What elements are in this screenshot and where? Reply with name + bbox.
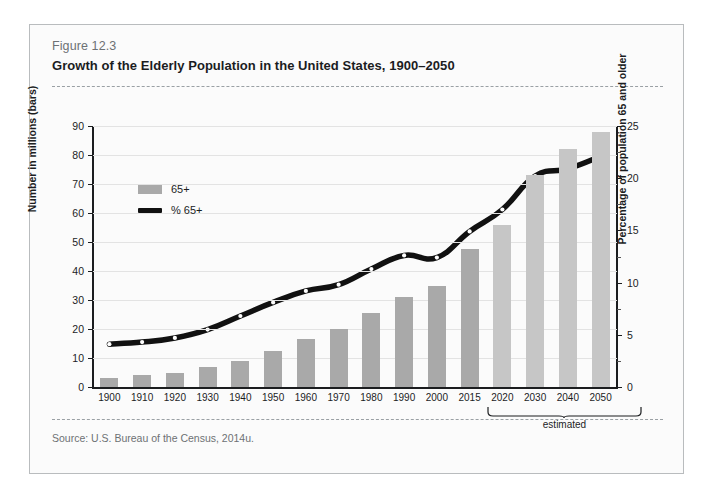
y-axis-right-tick-label: 15 (627, 224, 639, 236)
x-axis-tick-label-1960: 1960 (295, 392, 317, 403)
x-axis-tick-label-1980: 1980 (360, 392, 382, 403)
legend-bar-swatch-icon (138, 185, 162, 194)
y-axis-left-tick-label: 10 (72, 352, 84, 364)
figure-frame: Figure 12.3 Growth of the Elderly Popula… (29, 24, 684, 474)
bar-2000 (428, 286, 446, 388)
y-axis-left-tick-label: 70 (72, 178, 84, 190)
line-marker-1990 (402, 253, 406, 257)
chart-legend: 65+ % 65+ (138, 181, 203, 223)
y-axis-left-tick-label: 80 (72, 149, 84, 161)
x-axis-tick-label-2020: 2020 (491, 392, 513, 403)
y-axis-left-title: Number in millions (bars) (26, 69, 38, 229)
line-marker-1900 (107, 342, 111, 346)
line-marker-2000 (435, 255, 439, 259)
legend-line-label: % 65+ (171, 204, 203, 216)
y-axis-left-tick-label: 40 (72, 265, 84, 277)
line-marker-2015 (468, 229, 472, 233)
y-axis-right-tick-label: 0 (627, 381, 633, 393)
bar-2030 (526, 175, 544, 387)
y-axis-right-minor-tick (617, 309, 621, 310)
x-axis-tick-label-2050: 2050 (590, 392, 612, 403)
x-axis-tick-label-2030: 2030 (524, 392, 546, 403)
estimated-bracket-icon (487, 407, 642, 418)
x-axis-tick-label-2040: 2040 (557, 392, 579, 403)
y-axis-right-tick (617, 387, 622, 388)
gridline (93, 155, 617, 156)
y-axis-left-tick (88, 387, 93, 388)
bar-2050 (592, 132, 610, 387)
bar-1920 (166, 373, 184, 388)
line-marker-1920 (173, 336, 177, 340)
x-axis-tick-label-1950: 1950 (262, 392, 284, 403)
y-axis-right-tick (617, 335, 622, 336)
y-axis-right-tick-label: 20 (627, 172, 639, 184)
chart-plot: 0102030405060708090051015202519001910192… (93, 126, 617, 387)
bar-1930 (199, 367, 217, 387)
gridline (93, 126, 617, 127)
bar-2015 (461, 249, 479, 387)
estimated-caption: estimated (487, 419, 642, 430)
bar-1970 (330, 329, 348, 387)
legend-item-bars: 65+ (138, 181, 203, 197)
x-axis-tick-label-1900: 1900 (98, 392, 120, 403)
y-axis-right-tick (617, 283, 622, 284)
y-axis-right-title: Percentage of population 65 and older (616, 34, 628, 264)
x-axis-tick-label-1930: 1930 (197, 392, 219, 403)
bar-1910 (133, 375, 151, 387)
line-marker-1940 (238, 314, 242, 318)
line-marker-1970 (337, 283, 341, 287)
bar-1990 (395, 297, 413, 387)
bar-1940 (231, 361, 249, 387)
y-axis-left-tick (88, 242, 93, 243)
y-axis-right-tick-label: 5 (627, 329, 633, 341)
y-axis-left-tick (88, 358, 93, 359)
y-axis-left-tick-label: 90 (72, 120, 84, 132)
y-axis-left-tick-label: 60 (72, 207, 84, 219)
x-axis-tick-label-1990: 1990 (393, 392, 415, 403)
line-marker-2020 (500, 207, 504, 211)
x-axis (92, 387, 618, 389)
y-axis-left-tick-label: 20 (72, 323, 84, 335)
y-axis-right-minor-tick (617, 361, 621, 362)
y-axis-left-tick-label: 0 (78, 381, 84, 393)
bar-2040 (559, 149, 577, 387)
bar-1980 (362, 313, 380, 387)
line-marker-1960 (304, 289, 308, 293)
y-axis-left-tick-label: 50 (72, 236, 84, 248)
x-axis-tick-label-1940: 1940 (229, 392, 251, 403)
legend-bars-label: 65+ (171, 183, 190, 195)
y-axis-left-tick (88, 213, 93, 214)
bar-2020 (493, 225, 511, 387)
y-axis-right-tick-label: 25 (627, 120, 639, 132)
x-axis-tick-label-2015: 2015 (459, 392, 481, 403)
x-axis-tick-label-1970: 1970 (328, 392, 350, 403)
y-axis-right-tick-label: 10 (627, 277, 639, 289)
x-axis-tick-label-2000: 2000 (426, 392, 448, 403)
y-axis-left-tick-label: 30 (72, 294, 84, 306)
x-axis-tick-label-1920: 1920 (164, 392, 186, 403)
x-axis-tick-label-1910: 1910 (131, 392, 153, 403)
bar-1900 (100, 378, 118, 387)
y-axis-left-tick (88, 126, 93, 127)
y-axis-left-tick (88, 329, 93, 330)
line-marker-1910 (140, 340, 144, 344)
plot-area: 0102030405060708090051015202519001910192… (30, 25, 685, 475)
legend-item-line: % 65+ (138, 202, 203, 218)
bar-1950 (264, 351, 282, 387)
legend-line-swatch-icon (138, 208, 162, 213)
y-axis-left-tick (88, 271, 93, 272)
y-axis-left-tick (88, 184, 93, 185)
bar-1960 (297, 339, 315, 387)
y-axis-left-tick (88, 155, 93, 156)
y-axis-left-tick (88, 300, 93, 301)
figure-page: Figure 12.3 Growth of the Elderly Popula… (0, 0, 715, 498)
